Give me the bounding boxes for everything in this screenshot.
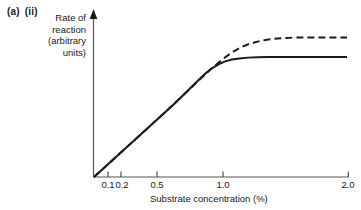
x-tick-label-4: 2.0 [341, 179, 354, 190]
series-dashed-curve [94, 38, 347, 178]
y-axis-arrowhead [90, 9, 98, 19]
plot-area [0, 0, 361, 210]
x-tick-label-1: 0.2 [115, 179, 128, 190]
x-axis-label: Substrate concentration (%) [150, 193, 268, 204]
x-axis [94, 172, 350, 178]
x-tick-label-2: 0.5 [150, 179, 163, 190]
series-solid-curve [94, 57, 347, 177]
x-tick-label-3: 1.0 [216, 179, 229, 190]
x-tick-label-0: 0.1 [101, 179, 114, 190]
figure-panel: (a)(ii) Rate of reaction (arbitrary unit… [0, 0, 361, 210]
y-axis [90, 9, 98, 177]
